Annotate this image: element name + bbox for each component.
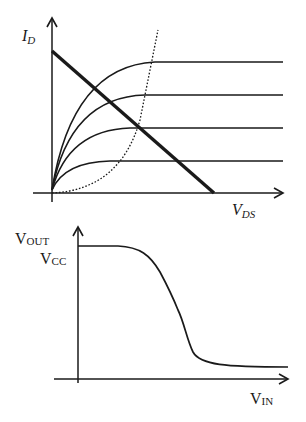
bottom-x-label: VIN (250, 390, 273, 407)
transfer-characteristic-chart: VOUT VCC VIN (15, 227, 288, 407)
top-y-label: ID (21, 27, 35, 46)
id-curve-3 (52, 128, 283, 190)
id-curve-2 (52, 95, 283, 190)
load-line (52, 51, 214, 193)
top-x-label: VDS (232, 201, 256, 220)
diagram-canvas: ID VDS VOUT VCC VIN (0, 0, 306, 422)
output-characteristics-chart: ID VDS (21, 18, 283, 220)
vcc-tick-label: VCC (40, 250, 66, 267)
vtc-curve (78, 246, 288, 367)
bottom-y-label: VOUT (15, 230, 49, 247)
saturation-boundary (52, 30, 158, 193)
